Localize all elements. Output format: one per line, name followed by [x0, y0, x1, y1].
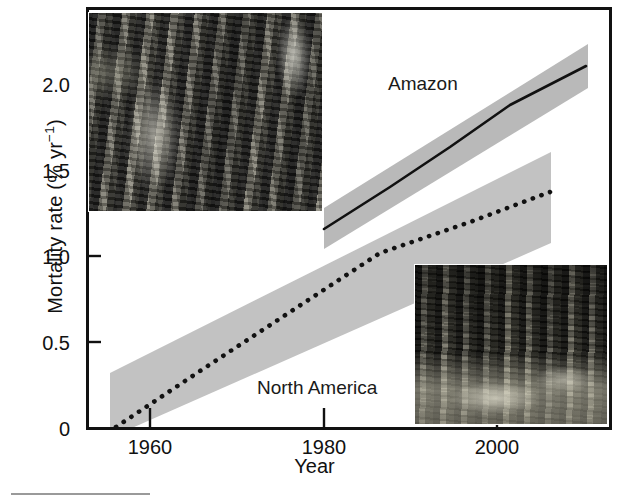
- series-label-amazon: Amazon: [388, 73, 458, 95]
- amazon-forest-photo: [88, 12, 323, 212]
- series-label-north-america: North America: [257, 377, 377, 399]
- mortality-rate-chart: Mortality rate (% yr−1) 2.0 1.5 1.0 0.5 …: [0, 0, 629, 498]
- north-america-forest-photo: [414, 264, 608, 425]
- footer-divider: [11, 493, 150, 495]
